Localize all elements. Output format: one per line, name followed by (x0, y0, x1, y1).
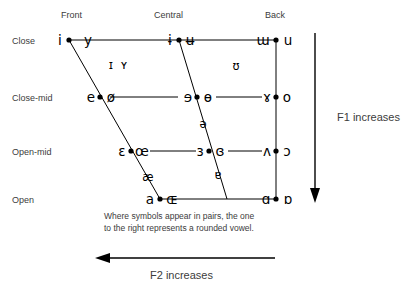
column-header-central: Central (154, 10, 183, 20)
vowel-symbol-turned-m: ɯ (256, 32, 269, 48)
vowel-symbol-barred-i: ɨ (168, 32, 172, 48)
row-label-open: Open (12, 195, 34, 205)
column-header-front: Front (61, 10, 83, 20)
vowel-dot-close-back (273, 37, 278, 42)
vowel-symbol-script-a: ɑ (262, 191, 271, 207)
vowel-symbol-e: e (87, 89, 95, 105)
vowel-symbol-a: a (146, 191, 154, 207)
f2-axis-arrowhead (95, 253, 110, 263)
column-header-back: Back (265, 10, 286, 20)
vowel-symbol-schwa: ə (199, 117, 206, 131)
vowel-dot-open-front (157, 196, 162, 201)
vowel-symbol-turned-a: ɐ (215, 168, 222, 182)
vowel-dot-open-back (273, 196, 278, 201)
vowel-symbol-upsilon: ʊ (232, 59, 239, 73)
vowel-symbol-epsilon: ɛ (118, 143, 125, 159)
vowel-dot-openmid-back (273, 148, 278, 153)
vowel-symbol-i: i (58, 32, 62, 48)
vowel-symbol-open-o: ɔ (283, 143, 290, 159)
f2-axis-label: F2 increases (150, 269, 213, 281)
vowel-symbol-oe-small-capital: ɶ (166, 191, 178, 207)
vowel-symbol-small-capital-i: ɪ (109, 58, 113, 72)
vowel-dot-openmid-front (128, 148, 133, 153)
vowel-symbol-reversed-e: ɘ (184, 89, 192, 105)
vowel-symbol-small-capital-y: ʏ (120, 58, 127, 72)
vowel-symbol-oe-ligature: œ (135, 143, 149, 159)
vowel-symbol-barred-o: ɵ (204, 89, 212, 105)
vowel-symbol-y: y (84, 32, 92, 48)
vowel-symbol-rams-horn: ɤ (263, 89, 271, 105)
vowel-chart-svg: Front Central Back Close Close-mid Open-… (0, 0, 417, 286)
vowel-symbol-closed-reversed-epsilon: ɞ (216, 143, 225, 159)
vowel-dot-close-central (176, 37, 181, 42)
vowel-symbol-turned-v: ʌ (263, 143, 271, 159)
row-label-open-mid: Open-mid (12, 147, 52, 157)
vowel-dot-openmid-central (206, 148, 211, 153)
vowel-symbol-turned-script-a: ɒ (284, 191, 293, 207)
vowel-symbol-barred-u: ʉ (186, 32, 195, 48)
vowel-symbol-u: u (284, 32, 293, 48)
vowel-symbol-o-slash: ø (107, 89, 115, 105)
row-label-close: Close (12, 36, 35, 46)
vowel-symbol-o: o (283, 89, 291, 105)
f1-axis-label: F1 increases (337, 111, 400, 123)
vowel-dot-close-front (66, 37, 71, 42)
ipa-vowel-chart: Front Central Back Close Close-mid Open-… (0, 0, 417, 286)
vowel-dot-closemid-back (273, 94, 278, 99)
vowel-symbol-reversed-epsilon: ɜ (196, 143, 203, 159)
vowel-symbol-ae-ligature: æ (142, 170, 153, 184)
f1-axis-arrowhead (310, 188, 320, 203)
row-label-close-mid: Close-mid (12, 93, 53, 103)
caption-line-1: Where symbols appear in pairs, the one (104, 211, 255, 221)
caption-line-2: to the right represents a rounded vowel. (104, 223, 254, 233)
vowel-dot-closemid-central (194, 94, 199, 99)
vowel-dot-closemid-front (97, 94, 102, 99)
